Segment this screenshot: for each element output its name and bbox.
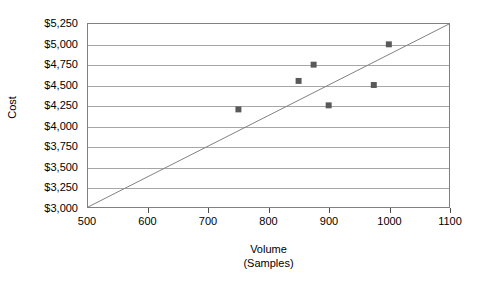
x-axis-tick-label: 500 bbox=[78, 216, 96, 227]
x-axis-title: Volume (Samples) bbox=[87, 242, 450, 270]
y-axis-tick-label: $4,500 bbox=[44, 79, 78, 90]
plot-area bbox=[87, 23, 450, 208]
x-axis-title-label: Volume bbox=[87, 242, 450, 256]
y-axis-title-label: Cost bbox=[7, 96, 18, 119]
y-axis-tick-label: $3,500 bbox=[44, 161, 78, 172]
x-axis-tick-label: 800 bbox=[259, 216, 277, 227]
data-point bbox=[311, 62, 317, 68]
x-axis-tick-label: 900 bbox=[320, 216, 338, 227]
x-axis-tick-mark bbox=[208, 208, 209, 213]
y-axis-tick-label: $3,750 bbox=[44, 141, 78, 152]
x-axis-tick-label: 1100 bbox=[438, 216, 462, 227]
x-axis-tick-label: 600 bbox=[138, 216, 156, 227]
y-axis-tick-label: $3,000 bbox=[44, 203, 78, 214]
x-axis-title-sublabel: (Samples) bbox=[87, 256, 450, 270]
plot-inner bbox=[88, 24, 449, 207]
y-axis-title: Cost bbox=[0, 0, 24, 215]
y-axis-tick-label: $5,000 bbox=[44, 38, 78, 49]
x-axis: 50060070080090010001100 bbox=[87, 208, 450, 238]
x-axis-tick-mark bbox=[269, 208, 270, 213]
x-axis-tick-mark bbox=[148, 208, 149, 213]
y-axis-tick-label: $4,750 bbox=[44, 59, 78, 70]
y-axis-tick-label: $5,250 bbox=[44, 18, 78, 29]
y-axis-tick-label: $4,000 bbox=[44, 120, 78, 131]
y-axis-tick-label: $4,250 bbox=[44, 100, 78, 111]
x-axis-tick-mark bbox=[329, 208, 330, 213]
x-axis-tick-label: 700 bbox=[199, 216, 217, 227]
data-point bbox=[326, 102, 332, 108]
x-axis-tick-mark bbox=[390, 208, 391, 213]
y-axis-tick-label: $3,250 bbox=[44, 182, 78, 193]
x-axis-tick-mark bbox=[450, 208, 451, 213]
data-point bbox=[371, 82, 377, 88]
y-axis-tick-labels: $3,000$3,250$3,500$3,750$4,000$4,250$4,5… bbox=[24, 23, 82, 208]
scatter-chart: Cost $3,000$3,250$3,500$3,750$4,000$4,25… bbox=[0, 0, 483, 296]
x-axis-tick-label: 1000 bbox=[377, 216, 401, 227]
data-points-layer bbox=[88, 24, 449, 207]
data-point bbox=[235, 106, 241, 112]
data-point bbox=[386, 41, 392, 47]
data-point bbox=[296, 78, 302, 84]
